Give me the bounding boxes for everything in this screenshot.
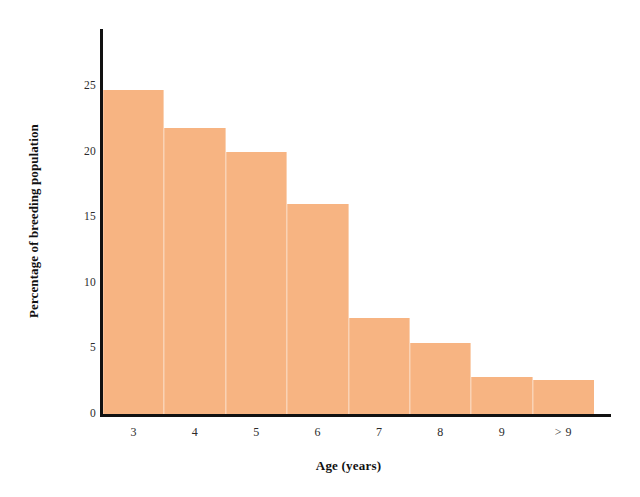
y-axis-tick-label: 25	[0, 80, 96, 92]
bar-series	[103, 30, 594, 414]
y-axis-tick-label: 10	[0, 277, 96, 289]
x-axis-tick-labels: 3 4 5 6 7 8 9 > 9	[103, 425, 594, 443]
bar-age-4	[164, 128, 225, 414]
x-axis-tick-label: 7	[349, 425, 410, 443]
bar-age-over-9	[533, 380, 594, 414]
y-axis-tick-label: 15	[0, 211, 96, 223]
bar-age-3	[103, 90, 164, 414]
x-axis-tick-label: 6	[287, 425, 348, 443]
plot-area	[103, 30, 594, 414]
x-axis-tick-label: 3	[103, 425, 164, 443]
y-axis-title: Percentage of breeding population	[26, 21, 42, 421]
bar-age-8	[410, 343, 471, 414]
y-axis-tick-label: 0	[0, 408, 96, 420]
y-axis-tick-label: 5	[0, 342, 96, 354]
bar-age-6	[287, 204, 348, 414]
x-axis-title: Age (years)	[103, 458, 594, 474]
y-axis-tick-labels: 25 20 15 10 5 0	[0, 0, 96, 497]
bar-age-9	[471, 377, 532, 414]
x-axis-tick-label: 9	[471, 425, 532, 443]
x-axis-line	[100, 414, 611, 417]
y-axis-tick-label: 20	[0, 146, 96, 158]
x-axis-tick-label: 4	[164, 425, 225, 443]
x-axis-tick-label: 5	[226, 425, 287, 443]
bar-age-5	[226, 152, 287, 414]
x-axis-tick-label: > 9	[533, 425, 594, 443]
bar-age-7	[349, 318, 410, 414]
x-axis-tick-label: 8	[410, 425, 471, 443]
chart-figure: 25 20 15 10 5 0 3 4 5 6 7 8 9 > 9 Age (y…	[0, 0, 640, 497]
y-axis-line	[100, 29, 103, 417]
